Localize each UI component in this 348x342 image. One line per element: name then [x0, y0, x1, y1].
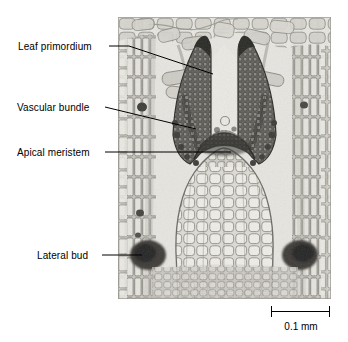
scale-bar-label: 0.1 mm [262, 321, 340, 332]
micrograph-svg [118, 17, 331, 299]
micrograph-image [118, 17, 331, 299]
label-leaf-primordium: Leaf primordium [18, 41, 92, 52]
micrograph-tissue [118, 17, 331, 299]
scale-bar-cap-left [271, 306, 272, 317]
label-apical-meristem: Apical meristem [17, 147, 90, 158]
figure-shoot-apical-meristem: Leaf primordium Vascular bundle Apical m… [0, 0, 348, 342]
scale-bar-line [271, 311, 330, 312]
scale-bar-cap-right [329, 306, 330, 317]
label-lateral-bud: Lateral bud [37, 250, 88, 261]
micrograph-grain-soft [118, 17, 331, 299]
label-vascular-bundle: Vascular bundle [17, 102, 89, 113]
scale-bar: 0.1 mm [262, 303, 340, 337]
